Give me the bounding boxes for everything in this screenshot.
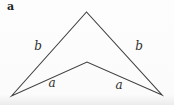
edge-label-b-upper-left: b	[34, 40, 42, 52]
dart-outline	[12, 12, 163, 96]
edge-label-a-lower-right: a	[115, 79, 122, 91]
edge-label-a-lower-left: a	[48, 77, 55, 89]
dart-diagram	[0, 0, 174, 105]
edge-label-b-upper-right: b	[135, 40, 143, 52]
figure-panel: a b b a a	[0, 0, 174, 105]
